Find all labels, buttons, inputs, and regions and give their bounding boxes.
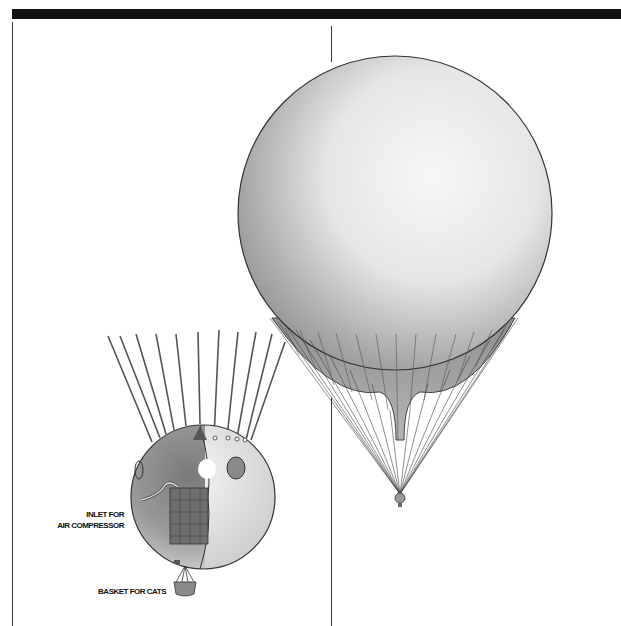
inlet-label: INLET FOR	[80, 509, 124, 520]
inlet-label-line2-wrap: AIR COMPRESSOR	[44, 520, 124, 531]
inlet-label-line2: AIR COMPRESSOR	[44, 520, 124, 531]
porthole-inner	[198, 459, 216, 479]
basket-label-text: BASKET FOR CATS	[82, 586, 166, 597]
inlet-label-line1: INLET FOR	[80, 509, 124, 520]
cutaway-gondola	[108, 330, 285, 596]
large-balloon	[238, 56, 552, 507]
cat-basket-icon	[174, 566, 196, 596]
small-gondola-icon	[395, 493, 405, 503]
porthole-icon	[227, 457, 245, 479]
balloon-illustration	[0, 0, 621, 626]
basket-label: BASKET FOR CATS	[82, 586, 166, 597]
